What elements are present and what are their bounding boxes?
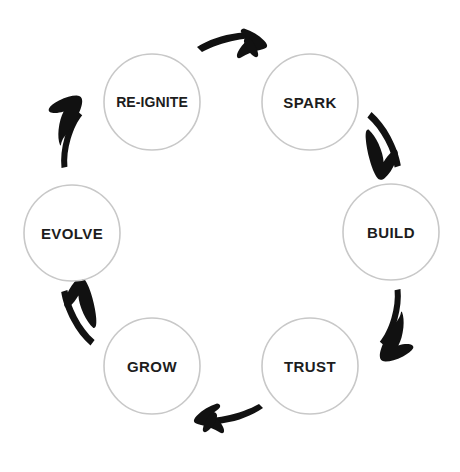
arrow-reignite-to-spark — [197, 29, 267, 59]
node-label-spark: SPARK — [283, 94, 336, 111]
node-spark[interactable]: SPARK — [262, 54, 358, 150]
diagram-canvas: RE-IGNITE SPARK BUILD TRUST GROW EVOLVE — [0, 0, 460, 472]
node-label-grow: GROW — [127, 358, 177, 375]
arrow-grow-to-evolve — [61, 278, 96, 346]
node-re-ignite[interactable]: RE-IGNITE — [104, 54, 200, 150]
node-label-trust: TRUST — [284, 358, 336, 375]
cycle-diagram: RE-IGNITE SPARK BUILD TRUST GROW EVOLVE — [0, 0, 460, 472]
node-label-build: BUILD — [367, 224, 415, 241]
arrow-spark-to-build — [366, 112, 401, 180]
node-trust[interactable]: TRUST — [262, 318, 358, 414]
node-grow[interactable]: GROW — [104, 318, 200, 414]
arrow-evolve-to-reignite — [49, 96, 83, 168]
node-label-evolve: EVOLVE — [41, 225, 103, 242]
node-label-re-ignite: RE-IGNITE — [116, 94, 188, 110]
node-evolve[interactable]: EVOLVE — [24, 185, 120, 281]
arrow-trust-to-grow — [194, 404, 263, 434]
arrow-build-to-trust — [380, 289, 414, 361]
node-build[interactable]: BUILD — [343, 184, 439, 280]
